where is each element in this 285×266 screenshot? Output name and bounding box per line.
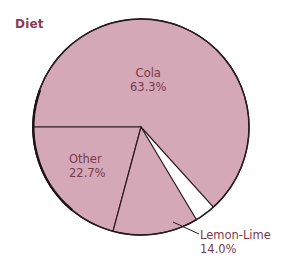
label-other-name: Other — [69, 152, 106, 166]
label-lemon-lime-name: Lemon-Lime — [200, 228, 271, 242]
label-lemon-lime-pct: 14.0% — [200, 242, 271, 256]
label-other: Other 22.7% — [69, 152, 106, 180]
label-other-pct: 22.7% — [69, 166, 106, 180]
label-lemon-lime: Lemon-Lime 14.0% — [200, 228, 271, 256]
pie-graphic — [0, 0, 285, 266]
label-cola-name: Cola — [130, 66, 167, 80]
label-cola: Cola 63.3% — [130, 66, 167, 94]
label-cola-pct: 63.3% — [130, 80, 167, 94]
pie-chart: Diet Cola 63.3% Other 22.7% Lemon-Lime 1… — [0, 0, 285, 266]
